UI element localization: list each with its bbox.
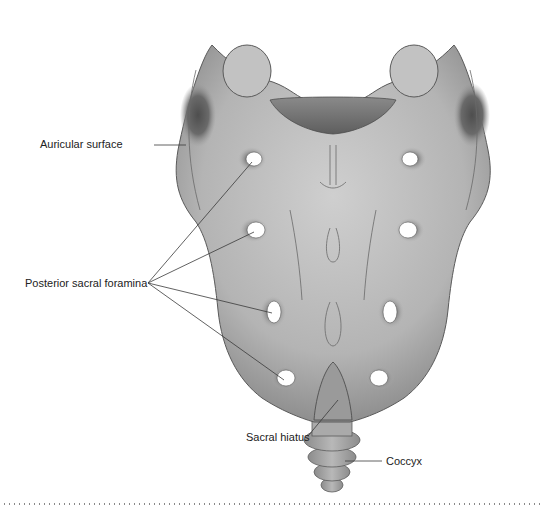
superior-articular-process-left [223, 45, 271, 97]
label-auricular-surface: Auricular surface [40, 138, 123, 151]
auricular-surface-right [454, 83, 490, 147]
auricular-surface-left [180, 83, 216, 147]
superior-articular-process-right [390, 45, 438, 97]
label-sacral-hiatus: Sacral hiatus [246, 431, 310, 444]
label-coccyx: Coccyx [386, 455, 422, 468]
dotted-divider [2, 503, 544, 505]
label-posterior-sacral-foramina: Posterior sacral foramina [25, 277, 147, 290]
coccyx [304, 418, 360, 492]
